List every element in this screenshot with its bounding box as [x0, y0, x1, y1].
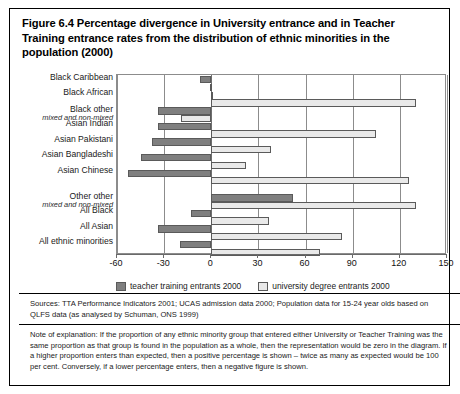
explanation-note: Note of explanation: If the proportion o… — [30, 330, 450, 372]
bar-teacher — [158, 123, 211, 130]
axis-tick-label: -60 — [109, 258, 122, 268]
value-axis: -60-300306090120150 — [116, 254, 446, 276]
bar-university — [211, 217, 269, 224]
bar-teacher — [211, 194, 293, 201]
axis-tick-label: 0 — [208, 258, 213, 268]
bar-teacher — [128, 170, 211, 177]
category-label-text: All Asian — [80, 221, 113, 231]
axis-tick-label: 30 — [252, 258, 262, 268]
category-label: All ethnic minorities — [39, 237, 113, 247]
axis-tick-label: 120 — [391, 258, 406, 268]
bar-university — [211, 202, 415, 209]
divider-top — [19, 293, 460, 294]
bar-university — [211, 99, 415, 106]
axis-line — [116, 254, 446, 255]
axis-tick-label: -30 — [157, 258, 170, 268]
bar-university — [211, 177, 409, 184]
bar-university — [211, 233, 341, 240]
category-label-text: All Black — [80, 205, 113, 215]
category-label-text: All ethnic minorities — [39, 236, 113, 246]
bar-university — [211, 162, 246, 169]
legend-label-teacher: teacher training entrants 2000 — [130, 281, 241, 291]
category-label: All Black — [80, 206, 113, 216]
category-label-text: Asian Pakistani — [54, 134, 113, 144]
legend-item-teacher: teacher training entrants 2000 — [116, 281, 241, 291]
bar-teacher — [158, 225, 211, 232]
chart-area: Black CaribbeanBlack AfricanBlack otherm… — [21, 69, 441, 277]
figure-container: Figure 6.4 Percentage divergence in Univ… — [9, 8, 450, 386]
legend-swatch-icon-university — [258, 282, 268, 291]
category-label: Black African — [63, 88, 113, 98]
bar-teacher — [180, 241, 211, 248]
category-label-text: Black African — [63, 87, 113, 97]
legend-item-university: university degree entrants 2000 — [258, 281, 389, 291]
sources-note: Sources: TTA Performance Indicators 2001… — [30, 299, 450, 320]
category-label-text: Asian Bangladeshi — [42, 149, 113, 159]
category-label-text: Black Caribbean — [50, 72, 113, 82]
legend-label-university: university degree entrants 2000 — [272, 281, 389, 291]
bar-teacher — [141, 154, 212, 161]
bar-teacher — [211, 92, 213, 99]
category-axis-labels: Black CaribbeanBlack AfricanBlack otherm… — [21, 74, 113, 254]
category-label-text: Black other — [70, 104, 113, 114]
category-label: Asian Bangladeshi — [42, 150, 113, 160]
category-label-text: Asian Indian — [66, 118, 113, 128]
legend-swatch-icon-teacher — [116, 282, 126, 291]
bar-university — [211, 130, 376, 137]
bar-university — [210, 84, 212, 91]
bar-teacher — [158, 107, 211, 114]
category-label-text: Asian Chinese — [58, 165, 113, 175]
plot-area — [116, 74, 446, 254]
category-label: Asian Indian — [66, 119, 113, 129]
category-label: Asian Chinese — [58, 166, 113, 176]
category-label: Asian Pakistani — [54, 135, 113, 145]
bar-university — [181, 115, 211, 122]
axis-tick-label: 90 — [347, 258, 357, 268]
category-label: Black Caribbean — [50, 73, 113, 83]
category-label: All Asian — [80, 222, 113, 232]
gridline — [447, 75, 448, 253]
divider-middle — [19, 324, 460, 325]
figure-title: Figure 6.4 Percentage divergence in Univ… — [22, 16, 434, 60]
bar-teacher — [200, 76, 211, 83]
gridline — [117, 75, 118, 253]
chart-legend: teacher training entrants 2000 universit… — [116, 281, 402, 291]
axis-tick-label: 150 — [438, 258, 453, 268]
bar-university — [211, 146, 271, 153]
axis-tick-label: 60 — [300, 258, 310, 268]
bar-teacher — [191, 210, 211, 217]
bar-teacher — [152, 138, 212, 145]
category-label-text: Other other — [70, 191, 113, 201]
